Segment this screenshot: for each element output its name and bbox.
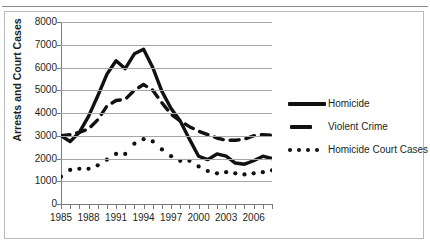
y-axis-tick-label: 7000	[11, 40, 57, 50]
data-point	[141, 137, 145, 141]
legend-item[interactable]: Homicide	[288, 92, 420, 115]
x-axis-tick	[144, 205, 145, 209]
gridline	[61, 22, 272, 23]
x-axis-tick	[244, 205, 245, 209]
x-axis-tick	[70, 205, 71, 209]
y-axis-tick-label: 6000	[11, 63, 57, 73]
x-axis-tick	[134, 205, 135, 209]
x-axis-tick	[107, 205, 108, 209]
data-point	[132, 142, 136, 146]
legend-item[interactable]: Violent Crime	[288, 115, 420, 138]
y-axis-tick-label: 5000	[11, 85, 57, 95]
x-axis-line	[61, 204, 273, 205]
data-point	[252, 171, 256, 175]
x-axis-tick	[98, 205, 99, 209]
x-axis-tick	[79, 205, 80, 209]
y-axis-tick	[57, 90, 61, 91]
data-point	[114, 152, 118, 156]
data-point	[197, 164, 201, 168]
y-axis-tick	[57, 45, 61, 46]
dot-swatch	[315, 148, 319, 152]
gridline	[61, 68, 272, 69]
x-axis-tick	[180, 205, 181, 209]
y-axis-tick-label: 1000	[11, 176, 57, 186]
y-axis-tick	[57, 181, 61, 182]
y-axis-tick	[57, 113, 61, 114]
x-axis-tick	[162, 205, 163, 209]
dash-swatch	[290, 125, 312, 129]
legend-label: Homicide	[328, 98, 370, 109]
data-point	[96, 163, 100, 167]
data-point	[160, 147, 164, 151]
x-axis-tick	[208, 205, 209, 209]
data-point	[215, 171, 219, 175]
y-axis-tick-label: 2000	[11, 154, 57, 164]
x-axis-tick	[171, 205, 172, 209]
data-point	[242, 172, 246, 176]
legend-label: Violent Crime	[328, 121, 388, 132]
x-axis-tick	[272, 205, 273, 209]
dot-swatch	[306, 148, 310, 152]
x-axis-tick	[61, 205, 62, 209]
data-point	[123, 152, 127, 156]
gridline	[61, 136, 272, 137]
legend-item[interactable]: Homicide Court Cases	[288, 138, 420, 161]
data-point	[233, 171, 237, 175]
data-point	[77, 167, 81, 171]
y-axis-tick-label: 4000	[11, 108, 57, 118]
dot-swatch	[297, 148, 301, 152]
x-axis-tick	[89, 205, 90, 209]
horizontal-rule	[2, 6, 428, 7]
data-point	[151, 139, 155, 143]
y-axis-tick-label: 3000	[11, 131, 57, 141]
data-point	[224, 170, 228, 174]
x-axis-tick	[189, 205, 190, 209]
y-axis-tick	[57, 68, 61, 69]
x-axis-tick	[254, 205, 255, 209]
data-point	[206, 169, 210, 173]
x-axis-tick	[199, 205, 200, 209]
solid-swatch	[288, 102, 326, 106]
gridline	[61, 45, 272, 46]
gridline	[61, 113, 272, 114]
data-point	[270, 168, 272, 172]
dashed-line-key	[288, 121, 328, 133]
x-axis-tick	[153, 205, 154, 209]
x-axis-tick	[226, 205, 227, 209]
x-axis-tick	[116, 205, 117, 209]
x-axis-tick	[263, 205, 264, 209]
top-rule-strip: g	[0, 0, 430, 10]
y-axis-tick-label: 0	[11, 199, 57, 209]
plot-area	[61, 22, 272, 204]
y-axis-tick-labels: 800070006000500040003000200010000	[5, 0, 57, 245]
dotted-line-key	[288, 144, 328, 156]
x-axis-tick	[235, 205, 236, 209]
y-axis-tick	[57, 22, 61, 23]
dot-swatch	[288, 148, 292, 152]
y-axis-tick-label: 8000	[11, 17, 57, 27]
legend-label: Homicide Court Cases	[328, 144, 428, 155]
data-point	[261, 170, 265, 174]
chart-legend: HomicideViolent CrimeHomicide Court Case…	[288, 92, 420, 161]
gridline	[61, 90, 272, 91]
data-point	[86, 167, 90, 171]
x-axis-tick	[125, 205, 126, 209]
data-point	[61, 175, 63, 179]
data-point	[68, 168, 72, 172]
y-axis-tick	[57, 136, 61, 137]
gridline	[61, 159, 272, 160]
x-axis-tick	[217, 205, 218, 209]
y-axis-tick	[57, 159, 61, 160]
x-axis-tick-label: 2006	[237, 212, 271, 223]
gridline	[61, 181, 272, 182]
solid-line-key	[288, 98, 328, 110]
